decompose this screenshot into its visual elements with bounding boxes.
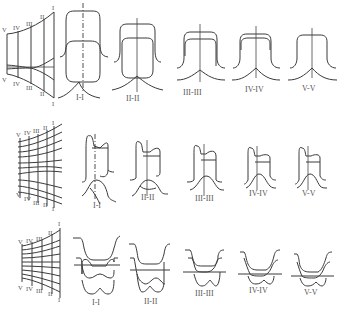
row1-top-label-II: II — [40, 13, 44, 20]
row2-section-label-1: I-I — [93, 201, 101, 210]
row3-section-label-1: I-I — [92, 298, 100, 307]
row1-bottom-label-II: II — [40, 90, 44, 97]
row3-top-label-II: II — [48, 229, 52, 236]
row2-top-label-III: III — [33, 127, 40, 134]
row1-section-label-4: IV-IV — [245, 85, 264, 94]
row1-top-label-IV: IV — [13, 24, 20, 31]
row3-bottom-label-I: I — [58, 296, 60, 303]
row3-section-I-I: I-I — [73, 236, 120, 307]
row2-top-label-V: V — [16, 131, 21, 138]
row2-section-V-V: V-V — [295, 146, 327, 198]
row1-bottom-label-V: V — [2, 76, 7, 83]
row-3-grid: V IV III II I V IV III II I — [18, 220, 60, 303]
row1-top-label-III: III — [26, 20, 33, 27]
row3-section-label-3: III-III — [195, 289, 214, 298]
row2-section-II-II: II-II — [130, 140, 168, 202]
row3-section-IV-IV: IV-IV — [238, 250, 282, 295]
row2-top-label-I: I — [52, 119, 54, 126]
row3-bottom-label-V: V — [18, 284, 23, 291]
row2-section-IV-IV: IV-IV — [244, 146, 276, 198]
row1-section-II-II: II-II — [112, 18, 163, 103]
row2-section-label-2: II-II — [141, 193, 155, 202]
row2-section-I-I: I-I — [82, 134, 116, 210]
row-1-grid: V IV III II I V IV III II I — [2, 4, 54, 107]
row2-bottom-label-V: V — [16, 191, 21, 198]
row2-bottom-label-IV: IV — [24, 195, 31, 202]
row2-top-label-IV: IV — [24, 129, 31, 136]
row2-bottom-label-III: III — [33, 199, 40, 206]
row3-section-II-II: II-II — [129, 244, 170, 306]
row3-section-label-4: IV-IV — [249, 286, 268, 295]
row1-bottom-label-I: I — [52, 100, 54, 107]
row3-bottom-label-II: II — [48, 290, 52, 297]
row1-section-IV-IV: IV-IV — [232, 26, 280, 94]
row1-top-label-I: I — [52, 4, 54, 11]
row1-section-label-3: III-III — [183, 88, 202, 97]
row1-section-label-1: I-I — [76, 93, 84, 102]
row1-section-III-III: III-III — [177, 24, 225, 97]
row1-section-V-V: V-V — [288, 28, 337, 93]
row2-section-label-3: III-III — [195, 194, 214, 203]
row1-bottom-label-IV: IV — [13, 80, 20, 87]
row3-top-label-V: V — [18, 238, 23, 245]
row1-top-label-V: V — [2, 26, 7, 33]
row1-section-label-2: II-II — [126, 94, 140, 103]
row2-top-label-II: II — [43, 124, 47, 131]
row3-top-label-III: III — [36, 235, 43, 242]
row2-section-label-5: V-V — [302, 189, 316, 198]
row3-section-V-V: V-V — [291, 252, 334, 297]
row3-top-label-IV: IV — [26, 237, 33, 244]
row1-section-I-I: I-I — [58, 3, 108, 102]
row3-section-III-III: III-III — [183, 250, 226, 298]
row3-bottom-label-III: III — [36, 287, 43, 294]
row3-top-label-I: I — [58, 220, 60, 227]
row1-section-label-5: V-V — [302, 84, 316, 93]
row-2-grid: V IV III II I V IV III II I — [16, 119, 62, 212]
row1-bottom-label-III: III — [26, 84, 33, 91]
row3-bottom-label-IV: IV — [26, 285, 33, 292]
cross-section-diagram: V IV III II I V IV III II I I-I II-II II… — [0, 0, 347, 312]
row2-section-III-III: III-III — [187, 144, 224, 203]
row2-bottom-label-II: II — [43, 201, 47, 208]
row3-section-label-5: V-V — [304, 288, 318, 297]
row2-section-label-4: IV-IV — [249, 189, 268, 198]
row2-bottom-label-I: I — [52, 205, 54, 212]
row3-section-label-2: II-II — [144, 297, 158, 306]
